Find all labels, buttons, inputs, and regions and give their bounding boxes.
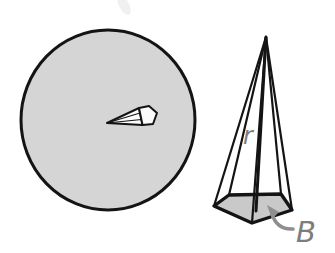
sphere-circle — [21, 30, 195, 210]
pyramid: r B — [214, 37, 316, 249]
sphere-pyramid-diagram: r B — [0, 0, 335, 253]
base-label: B — [296, 215, 316, 249]
geometry-figure: r B — [0, 0, 335, 253]
radius-label: r — [243, 122, 255, 150]
sphere — [21, 30, 195, 210]
print-smudge — [114, 0, 133, 17]
